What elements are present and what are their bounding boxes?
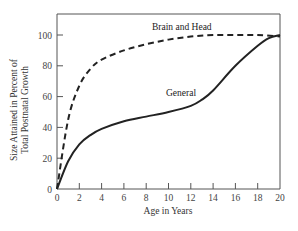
- y-axis-title-line1: Size Attained in Percent of: [9, 58, 19, 161]
- x-tick-label: 18: [253, 193, 263, 203]
- x-tick-label: 14: [208, 193, 218, 203]
- x-tick-label: 16: [231, 193, 241, 203]
- y-tick-label: 80: [43, 61, 53, 71]
- brain-and-head-label: Brain and Head: [152, 22, 212, 32]
- x-axis-title: Age in Years: [144, 206, 193, 216]
- x-tick-label: 2: [77, 193, 82, 203]
- general-curve: [57, 35, 280, 189]
- x-tick-label: 6: [122, 193, 127, 203]
- y-tick-label: 40: [43, 123, 53, 133]
- x-axis-ticks: 02468101214161820: [55, 183, 285, 203]
- y-tick-label: 0: [47, 185, 52, 195]
- x-tick-label: 4: [99, 193, 104, 203]
- y-tick-label: 60: [43, 92, 53, 102]
- y-tick-label: 20: [43, 154, 53, 164]
- general-label: General: [166, 88, 196, 98]
- x-tick-label: 20: [275, 193, 285, 203]
- x-tick-label: 0: [55, 193, 60, 203]
- x-tick-label: 12: [186, 193, 196, 203]
- y-axis-ticks: 020406080100: [38, 31, 63, 195]
- x-tick-label: 10: [164, 193, 174, 203]
- y-tick-label: 100: [38, 31, 53, 41]
- x-tick-label: 8: [144, 193, 149, 203]
- y-axis-title-line2: Total Postnatal Growth: [20, 66, 30, 154]
- growth-chart: 02468101214161820 020406080100 Brain and…: [0, 0, 298, 231]
- y-axis-title: Size Attained in Percent of Total Postna…: [9, 58, 30, 161]
